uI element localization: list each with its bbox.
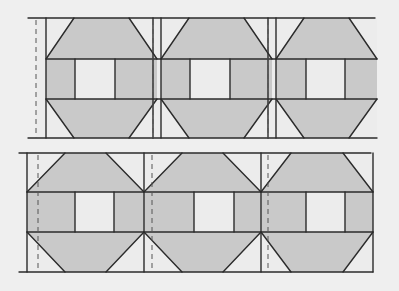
bottom-row-block-1-center-square bbox=[75, 192, 114, 232]
top-row-block-2-center-square bbox=[190, 59, 230, 99]
top-row-block-1-center-square bbox=[75, 59, 115, 99]
quilt-diagram-canvas bbox=[0, 0, 399, 291]
top-row-block-3-center-square bbox=[306, 59, 345, 99]
bottom-row-block-3-center-square bbox=[306, 192, 345, 232]
bottom-row-block-2-center-square bbox=[194, 192, 234, 232]
quilt-diagram bbox=[0, 0, 399, 291]
